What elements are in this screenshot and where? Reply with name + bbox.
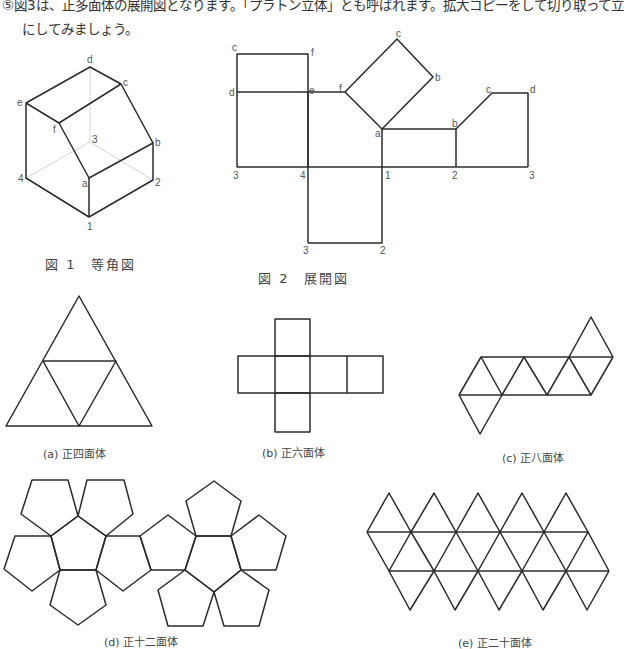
net-label-b: b bbox=[435, 72, 441, 83]
vertex-label-4: 4 bbox=[18, 173, 24, 184]
dodecahedron-net bbox=[4, 480, 286, 626]
vertex-label-3: 3 bbox=[92, 134, 98, 145]
octahedron-net bbox=[459, 317, 613, 434]
net-label-d-2: d bbox=[530, 84, 536, 95]
net-label-c-2: c bbox=[396, 28, 401, 39]
net-label-f-2: f bbox=[339, 83, 342, 94]
vertex-label-c: c bbox=[123, 77, 128, 88]
net-label-e: e bbox=[309, 85, 315, 96]
hidden-edges bbox=[26, 67, 153, 180]
net-label-2-bottom: 2 bbox=[380, 245, 386, 256]
caption-icosahedron: (e) 正二十面体 bbox=[458, 634, 532, 649]
vertex-label-a: a bbox=[82, 178, 88, 189]
caption-octahedron: (c) 正八面体 bbox=[502, 449, 564, 465]
vertex-label-b: b bbox=[155, 137, 161, 148]
icosahedron-net bbox=[367, 493, 609, 610]
caption-dodecahedron: (d) 正十二面体 bbox=[104, 633, 178, 649]
net-label-a: a bbox=[375, 128, 381, 139]
figure-1-isometric: d c e f b 3 4 a 2 1 bbox=[17, 54, 161, 232]
net-label-d: d bbox=[229, 87, 235, 98]
net-label-3: 3 bbox=[233, 170, 239, 181]
figure-2-caption: 図 2 展開図 bbox=[258, 268, 349, 287]
net-label-1: 1 bbox=[385, 170, 391, 181]
net-label-3-right: 3 bbox=[529, 170, 535, 181]
vertex-label-f: f bbox=[53, 124, 56, 135]
net-label-f: f bbox=[311, 47, 314, 58]
net-label-b-2: b bbox=[452, 118, 458, 129]
caption-cube: (b) 正六面体 bbox=[262, 444, 325, 460]
vertex-label-2: 2 bbox=[155, 177, 161, 188]
net-label-c-3: c bbox=[486, 84, 491, 95]
net-label-3-bottom: 3 bbox=[303, 245, 309, 256]
cube-net bbox=[238, 319, 383, 432]
net-label-4: 4 bbox=[300, 170, 306, 181]
net-label-2: 2 bbox=[452, 170, 458, 181]
vertex-label-e: e bbox=[17, 97, 23, 108]
caption-tetrahedron: (a) 正四面体 bbox=[43, 445, 106, 461]
net-label-c: c bbox=[232, 42, 237, 53]
figure-2-development: c f d e f a c b b c d 3 4 1 2 3 3 2 bbox=[229, 28, 536, 256]
figure-1-caption: 図 1 等角図 bbox=[45, 254, 136, 273]
tetrahedron-net bbox=[6, 296, 152, 426]
vertex-label-d: d bbox=[87, 54, 93, 65]
vertex-label-1: 1 bbox=[87, 221, 93, 232]
